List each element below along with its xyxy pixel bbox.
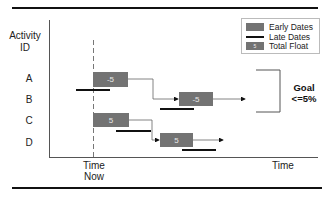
goal-bracket: [256, 70, 280, 112]
legend-label-early-dates: Early Dates: [269, 22, 313, 32]
total-float-d: 5: [174, 136, 178, 145]
late-dates-swatch-icon: [246, 36, 264, 38]
late-dates-line-a: [76, 89, 110, 91]
early-dates-bar-d: 5: [160, 133, 193, 147]
legend-item-early-dates: Early Dates: [246, 22, 313, 32]
legend-label-total-float: Total Float: [269, 41, 308, 51]
goal-value: <=5%: [288, 93, 320, 104]
late-dates-line-c: [116, 130, 151, 132]
early-dates-swatch-icon: [246, 23, 264, 31]
y-axis-label-line2: ID: [5, 42, 45, 54]
total-float-c: 5: [109, 116, 113, 125]
y-axis-label: Activity ID: [5, 30, 45, 54]
activity-label-b: B: [9, 94, 49, 105]
goal-title: Goal: [288, 82, 320, 93]
early-dates-bar-a: -5: [93, 72, 128, 87]
activity-label-d: D: [9, 137, 49, 148]
legend: Early Dates Late Dates 5 Total Float: [241, 18, 320, 54]
goal-text: Goal <=5%: [288, 82, 320, 104]
activity-label-a: A: [9, 73, 49, 84]
legend-item-total-float: 5 Total Float: [246, 41, 308, 51]
time-now-label-line1: Time: [80, 160, 108, 171]
x-axis-label: Time: [272, 160, 294, 171]
early-dates-bar-c: 5: [93, 113, 129, 127]
connector-a-b: [128, 79, 178, 99]
total-float-swatch-icon: 5: [246, 42, 264, 50]
y-axis-label-line1: Activity: [5, 30, 45, 42]
total-float-a: -5: [107, 75, 114, 84]
late-dates-line-d: [182, 149, 216, 151]
time-now-label-line2: Now: [80, 171, 108, 182]
total-float-sample: 5: [254, 43, 257, 49]
activity-label-c: C: [9, 115, 49, 126]
time-now-label: Time Now: [80, 160, 108, 182]
total-float-b: -5: [192, 95, 199, 104]
early-dates-bar-b: -5: [179, 92, 213, 106]
late-dates-line-b: [160, 108, 194, 110]
